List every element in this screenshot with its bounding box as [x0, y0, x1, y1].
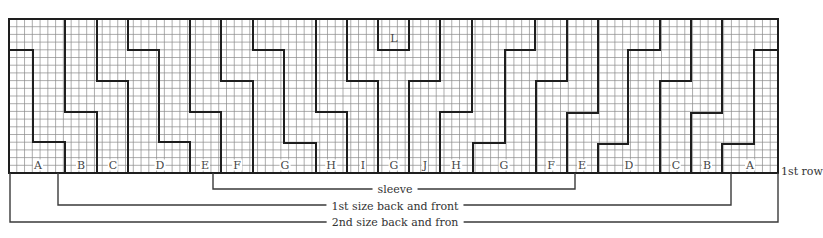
column-label: E — [577, 160, 587, 171]
column-label: A — [745, 160, 755, 171]
second-size-label: 2nd size back and fron — [327, 217, 464, 228]
column-label: G — [280, 160, 291, 171]
column-label: D — [155, 160, 166, 171]
sleeve-label: sleeve — [373, 184, 418, 195]
column-label: I — [360, 160, 366, 171]
column-label: F — [546, 160, 556, 171]
column-label: H — [450, 160, 462, 171]
column-label: B — [702, 160, 712, 171]
column-label: D — [624, 160, 635, 171]
column-label: C — [108, 160, 118, 171]
column-label: F — [232, 160, 242, 171]
column-label: E — [200, 160, 210, 171]
column-label: G — [499, 160, 510, 171]
column-label: B — [76, 160, 86, 171]
column-label: G — [389, 160, 400, 171]
first-size-label: 1st size back and front — [326, 201, 463, 212]
column-label: H — [325, 160, 337, 171]
column-label: A — [33, 160, 43, 171]
column-label: J — [422, 160, 428, 171]
motif-label-l: L — [390, 33, 397, 44]
first-row-label: 1st row — [781, 166, 823, 177]
column-label: C — [671, 160, 681, 171]
